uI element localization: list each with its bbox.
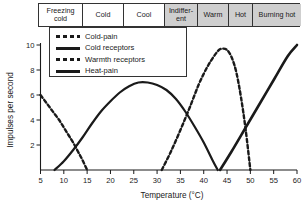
x-tick-label: 55 — [269, 176, 277, 185]
y-tick-label: 8 — [30, 66, 34, 75]
series-path-3 — [220, 45, 297, 170]
x-tick-label: 25 — [130, 176, 138, 185]
x-tick-label: 30 — [153, 176, 161, 185]
x-tick-label: 35 — [176, 176, 184, 185]
y-tick-label: 6 — [30, 91, 34, 100]
curves-group — [41, 45, 298, 170]
x-tick-label: 40 — [200, 176, 208, 185]
x-tick-label: 50 — [246, 176, 254, 185]
y-tick-label: 4 — [30, 116, 34, 125]
figure-thermal-sensation: Freezing coldColdCoolIndiffer- entWarmHo… — [0, 0, 303, 201]
x-tick-label: 10 — [60, 176, 68, 185]
x-tick-label: 5 — [38, 176, 42, 185]
series-path-0 — [41, 95, 88, 170]
series-path-2 — [162, 49, 251, 170]
x-tick-label: 20 — [106, 176, 114, 185]
x-tick-label: 15 — [83, 176, 91, 185]
y-tick-label: 10 — [26, 41, 34, 50]
y-axis-title: Impulses per second — [6, 72, 15, 148]
x-tick-label: 45 — [223, 176, 231, 185]
x-tick-label: 60 — [293, 176, 301, 185]
x-axis-title: Temperature (°C) — [141, 191, 204, 200]
chart-plot-area: 51015202530354045505560246810 Temperatur… — [0, 0, 303, 201]
y-tick-label: 2 — [30, 141, 34, 150]
axes-group: 51015202530354045505560246810 — [26, 41, 301, 185]
